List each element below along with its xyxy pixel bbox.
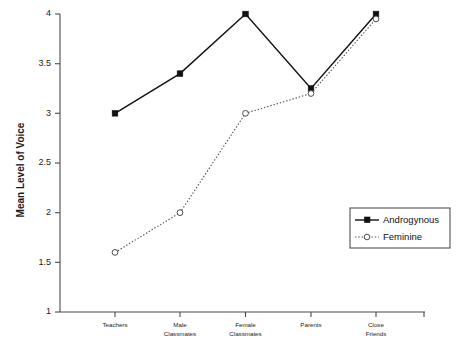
legend-marker-filled-square [365,217,371,223]
data-point-marker-circle [373,16,379,22]
series-line [115,14,376,113]
line-chart: Mean Level of Voice 4 3.5 3 2.5 2 1.5 1 [0,0,463,350]
x-axis-labels: Teachers Male Classmates Female Classmat… [102,321,386,337]
y-tick-label: 3.5 [38,58,51,68]
data-point-marker-square [243,11,249,17]
data-point-marker-circle [112,250,118,256]
y-tick-label: 1.5 [38,257,51,267]
data-point-marker-circle [308,91,314,97]
legend-label: Androgynous [383,214,439,225]
data-point-marker-circle [243,110,249,116]
y-tick-label: 2.5 [38,157,51,167]
legend: Androgynous Feminine [350,208,450,248]
x-tick-label: Male [173,321,187,328]
x-tick-label: Parents [300,321,321,328]
series-line [115,19,376,252]
y-tick-label: 2 [46,207,51,217]
y-tick-label: 4 [46,8,51,18]
data-point-marker-circle [177,210,183,216]
x-tick-label: Female [235,321,256,328]
y-axis-title: Mean Level of Voice [15,122,26,217]
data-point-marker-square [112,111,118,117]
x-tick-label: Classmates [164,330,196,337]
y-tick-label: 1 [46,306,51,316]
x-tick-label: Close [368,321,384,328]
data-point-marker-square [177,71,183,77]
y-tick-label: 3 [46,108,51,118]
chart-canvas: Mean Level of Voice 4 3.5 3 2.5 2 1.5 1 [0,0,463,350]
x-tick-label: Friends [366,330,387,337]
series-androgynous [112,11,379,116]
series-feminine [112,16,379,255]
x-tick-label: Classmates [229,330,261,337]
data-series-layer [112,11,379,255]
y-axis-ticks: 4 3.5 3 2.5 2 1.5 1 [38,8,60,316]
x-tick-label: Teachers [102,321,127,328]
x-axis-ticks [115,312,424,317]
legend-marker-open-circle [364,234,370,240]
legend-label: Feminine [383,231,422,242]
